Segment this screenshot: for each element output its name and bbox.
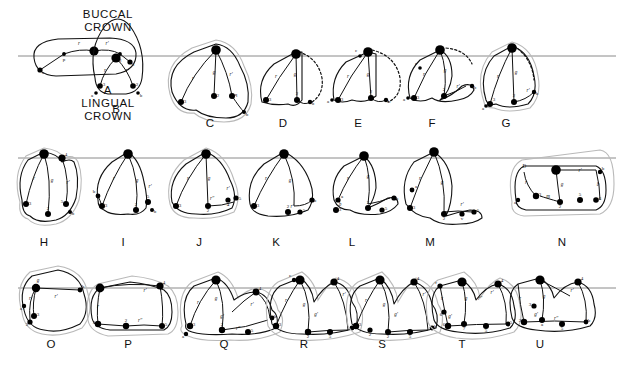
landmark-arc	[524, 321, 586, 322]
landmark-point[interactable]	[406, 96, 410, 100]
landmark-label: 2	[207, 208, 210, 213]
landmark-point[interactable]	[437, 283, 442, 288]
landmark-point[interactable]	[63, 201, 69, 207]
specimen-h[interactable]: rgr'4325b	[17, 148, 81, 225]
arc-label: r''	[554, 315, 559, 321]
landmark-point[interactable]	[295, 275, 304, 284]
landmark-point[interactable]	[484, 104, 488, 108]
specimen-d[interactable]: rg32b	[261, 49, 323, 106]
landmark-point[interactable]	[111, 53, 120, 62]
landmark-label: 5	[239, 196, 242, 201]
landmark-point[interactable]	[123, 323, 129, 329]
landmark-label: 5	[579, 192, 582, 197]
landmark-label: b	[396, 196, 399, 201]
landmark-point[interactable]	[211, 275, 220, 284]
landmark-label: a	[541, 322, 544, 327]
specimen-a-label: A	[48, 84, 168, 97]
landmark-point[interactable]	[521, 319, 527, 325]
landmark-point[interactable]	[358, 54, 362, 58]
landmark-label: a	[42, 70, 45, 75]
landmark-point[interactable]	[457, 277, 466, 286]
landmark-point[interactable]	[184, 332, 188, 336]
specimen-a[interactable]: rr'apqb	[34, 38, 136, 76]
landmark-point[interactable]	[577, 197, 583, 203]
landmark-label: b	[72, 211, 75, 216]
landmark-point[interactable]	[410, 188, 415, 193]
landmark-point[interactable]	[291, 49, 301, 59]
landmark-point[interactable]	[219, 327, 225, 333]
landmark-point[interactable]	[531, 303, 536, 308]
specimen-g[interactable]: rgr'3a2b	[480, 42, 539, 111]
landmark-point[interactable]	[441, 93, 447, 99]
landmark-arc	[100, 284, 160, 288]
landmark-point[interactable]	[201, 149, 211, 159]
landmark-label: 3	[341, 97, 344, 102]
arc-label: g	[37, 277, 40, 283]
specimen-n[interactable]: rgr'bmD3a256b	[510, 150, 614, 216]
specimen-r[interactable]: rgr'g'4325bc	[266, 272, 362, 340]
landmark-point[interactable]	[429, 147, 439, 157]
landmark-point[interactable]	[330, 98, 334, 102]
specimen-f[interactable]: rgr'3a2bc	[403, 45, 477, 102]
landmark-point[interactable]	[551, 165, 561, 175]
landmark-point[interactable]	[368, 95, 374, 101]
landmark-point[interactable]	[32, 284, 40, 292]
landmark-point[interactable]	[507, 43, 517, 53]
landmark-point[interactable]	[22, 304, 26, 308]
landmark-point[interactable]	[335, 197, 340, 202]
panel-label-c: C	[198, 117, 222, 129]
landmark-point[interactable]	[418, 66, 422, 70]
arc-label: r	[441, 295, 444, 301]
landmark-point[interactable]	[365, 205, 371, 211]
landmark-point[interactable]	[96, 284, 105, 293]
landmark-point[interactable]	[435, 45, 445, 55]
landmark-point[interactable]	[123, 149, 133, 159]
landmark-point[interactable]	[359, 151, 369, 161]
landmark-point[interactable]	[39, 149, 49, 159]
specimen-i[interactable]: rgr'32b5b	[93, 149, 157, 214]
landmark-label: 5	[251, 328, 254, 333]
landmark-point[interactable]	[145, 199, 151, 205]
landmark-point[interactable]	[516, 198, 520, 202]
landmark-point[interactable]	[95, 321, 101, 327]
landmark-point[interactable]	[511, 99, 517, 105]
landmark-label: b	[154, 209, 157, 214]
landmark-point[interactable]	[96, 194, 101, 199]
landmark-point[interactable]	[45, 211, 51, 217]
landmark-point[interactable]	[211, 45, 221, 55]
landmark-point[interactable]	[363, 47, 373, 57]
landmark-point[interactable]	[445, 323, 451, 329]
specimen-k[interactable]: rgr'325b	[249, 149, 316, 216]
landmark-label: 2	[287, 204, 290, 209]
landmark-point[interactable]	[292, 278, 296, 282]
specimen-j[interactable]: rgr'r''3245	[169, 148, 242, 218]
landmark-point[interactable]	[535, 275, 544, 284]
specimen-p[interactable]: rr'r''4325	[87, 276, 178, 336]
specimen-m[interactable]: rgr'3a2v5	[404, 147, 482, 224]
landmark-point[interactable]	[279, 149, 289, 159]
specimen-o[interactable]: r'gr32ab	[19, 266, 90, 335]
specimen-u[interactable]: rgr'g'r''42a5b3	[510, 275, 595, 331]
landmark-label: b	[246, 112, 249, 117]
landmark-label: q	[235, 92, 238, 97]
arc-label: r'	[526, 87, 530, 93]
specimen-c[interactable]: rgr'32qb	[168, 40, 251, 122]
landmark-arc	[294, 200, 312, 206]
landmark-label: 3	[29, 201, 32, 206]
landmark-point[interactable]	[133, 207, 139, 213]
crown-outline	[333, 156, 398, 215]
specimen-q[interactable]: rgr'g'r''43a25b	[180, 272, 282, 341]
landmark-point[interactable]	[375, 275, 384, 284]
specimen-l[interactable]: rgba325b	[333, 151, 399, 214]
landmark-label: 3	[193, 322, 196, 327]
arc-label: g	[441, 179, 444, 185]
landmark-point[interactable]	[285, 209, 291, 215]
arc-label: g	[515, 69, 518, 75]
landmark-point[interactable]	[62, 52, 66, 56]
landmark-label: b	[93, 189, 96, 194]
landmark-label: a	[327, 99, 330, 104]
landmark-arc	[266, 54, 296, 100]
landmark-point[interactable]	[294, 97, 300, 103]
arc-label: g	[383, 301, 386, 307]
arc-label: r'	[54, 293, 58, 299]
